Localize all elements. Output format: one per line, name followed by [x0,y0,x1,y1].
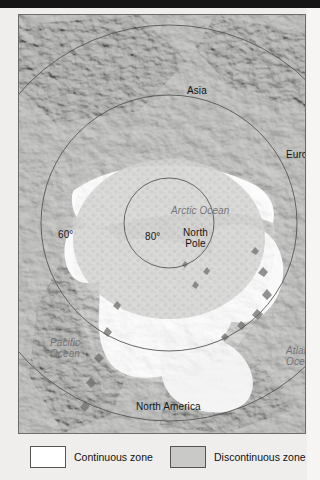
map-label-atlantic-ocean: Atlantic Ocean [286,345,306,367]
map-label-asia: Asia [187,85,207,96]
map-label-north-pole: North Pole [183,227,208,249]
map-label-north-pole-line1: North [183,227,208,238]
map-label-arctic-ocean: Arctic Ocean [171,205,229,216]
map-label-europe: Europe [286,149,306,160]
map-label-atlantic-ocean-line2: Ocean [286,356,306,367]
map-label-north-america: North America [136,401,201,412]
map-label-pacific-ocean: Pacific Ocean [50,337,80,359]
legend-label-discontinuous-zone: Discontinuous zone [214,451,306,463]
map-label-atlantic-ocean-line1: Atlantic [286,345,306,356]
map-label-pacific-ocean-line2: Ocean [50,348,80,359]
legend-swatch-continuous-zone [30,446,66,468]
map-label-pacific-ocean-line1: Pacific [50,337,80,348]
map-legend: Continuous zone Discontinuous zone [18,444,306,476]
arctic-map: Asia Europe Arctic Ocean North Pole 80° … [18,14,306,434]
top-dark-band [0,0,320,8]
right-page-margin [307,8,320,480]
legend-label-continuous-zone: Continuous zone [74,451,153,463]
map-label-latitude-60: 60° [58,229,73,240]
page-root: Asia Europe Arctic Ocean North Pole 80° … [0,0,320,480]
map-label-latitude-80: 80° [145,231,160,242]
legend-item-continuous-zone: Continuous zone [30,446,153,468]
map-graphic [19,15,305,433]
legend-swatch-discontinuous-zone [170,446,206,468]
map-label-north-pole-line2: Pole [183,238,208,249]
legend-item-discontinuous-zone: Discontinuous zone [170,446,306,468]
